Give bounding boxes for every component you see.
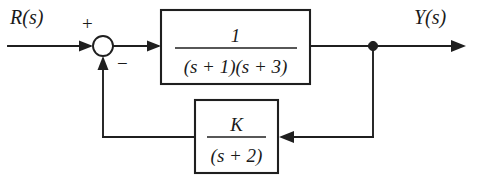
output-signal-label: Y(s) xyxy=(414,6,447,29)
feedback-into-block-wire xyxy=(279,131,373,143)
summing-junction-minus-sign: − xyxy=(117,53,128,74)
feedback-block-arrowhead xyxy=(279,131,294,143)
feedback-up-wire xyxy=(98,56,109,137)
output-arrowhead xyxy=(451,40,466,52)
feedback-arrowhead xyxy=(98,56,109,70)
output-takeoff-node xyxy=(368,41,377,50)
input-wire xyxy=(8,41,93,52)
input-signal-label: R(s) xyxy=(9,6,44,29)
error-wire xyxy=(113,41,161,52)
summing-junction-plus-sign: + xyxy=(82,13,93,34)
input-arrowhead xyxy=(79,41,93,52)
summing-junction xyxy=(93,36,113,56)
forward-block-denominator: (s + 1)(s + 3) xyxy=(184,56,288,78)
feedback-path-block: K (s + 2) xyxy=(195,100,278,173)
forward-path-block: 1 (s + 1)(s + 3) xyxy=(161,10,310,84)
error-arrowhead xyxy=(147,41,161,52)
block-diagram-canvas: + − R(s) Y(s) 1 (s + 1)(s + 3) K (s + 2) xyxy=(0,0,480,191)
feedback-block-denominator: (s + 2) xyxy=(211,145,263,167)
forward-block-numerator: 1 xyxy=(231,25,241,46)
block-diagram-container: + − R(s) Y(s) 1 (s + 1)(s + 3) K (s + 2) xyxy=(0,0,480,191)
output-wire xyxy=(310,40,466,52)
feedback-block-numerator: K xyxy=(229,114,244,135)
